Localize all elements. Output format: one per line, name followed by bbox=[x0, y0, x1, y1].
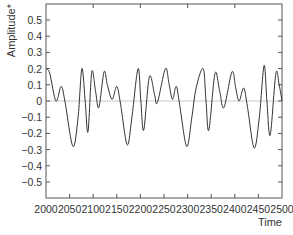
y-tick-label: 0 bbox=[36, 95, 42, 107]
y-tick-labels: 0.50.40.30.20.10−0.1−0.2−0.3−0.4−0.5 bbox=[21, 14, 42, 188]
y-tick-label: 0.4 bbox=[27, 30, 42, 42]
y-tick-label: 0.2 bbox=[27, 63, 42, 75]
y-tick-label: −0.4 bbox=[21, 160, 42, 172]
y-axis-label: Amplitude* bbox=[5, 3, 17, 57]
x-tick-label: 2350 bbox=[200, 203, 224, 215]
x-tick-label: 2050 bbox=[58, 203, 82, 215]
amplitude-chart: 2000205021002150220022502300235024002450… bbox=[0, 0, 293, 235]
y-tick-label: −0.3 bbox=[21, 144, 42, 156]
x-tick-label: 2400 bbox=[223, 203, 247, 215]
y-tick-label: −0.2 bbox=[21, 127, 42, 139]
y-tick-label: 0.3 bbox=[27, 46, 42, 58]
x-tick-label: 2300 bbox=[176, 203, 200, 215]
x-tick-label: 2150 bbox=[105, 203, 129, 215]
x-tick-label: 2100 bbox=[82, 203, 106, 215]
x-tick-label: 2000 bbox=[34, 203, 58, 215]
y-tick-label: 0.5 bbox=[27, 14, 42, 26]
x-tick-label: 2500 bbox=[270, 203, 293, 215]
x-tick-label: 2450 bbox=[247, 203, 271, 215]
x-tick-labels: 2000205021002150220022502300235024002450… bbox=[34, 203, 293, 215]
y-tick-label: −0.5 bbox=[21, 176, 42, 188]
x-tick-label: 2200 bbox=[129, 203, 153, 215]
y-tick-label: 0.1 bbox=[27, 79, 42, 91]
x-tick-label: 2250 bbox=[152, 203, 176, 215]
x-axis-label: Time bbox=[258, 216, 282, 228]
y-tick-label: −0.1 bbox=[21, 111, 42, 123]
